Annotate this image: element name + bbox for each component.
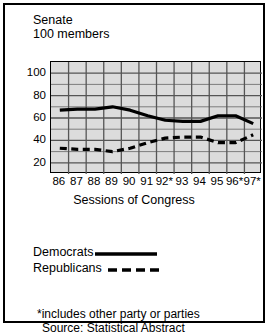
x-tick-label: 94	[193, 175, 206, 187]
x-tick-label: 95	[211, 175, 224, 187]
legend-item-republicans: Republicans	[33, 261, 166, 277]
x-tick-label: 89	[105, 175, 118, 187]
line-chart-svg	[51, 62, 262, 174]
y-tick-label: 20	[33, 156, 46, 168]
x-tick-label: 86	[52, 175, 65, 187]
x-tick-label: 90	[123, 175, 136, 187]
chart-notes: *includes other party or parties Source:…	[37, 293, 200, 336]
source-line: Source: Statistical Abstract	[42, 321, 200, 335]
x-axis-title: Sessions of Congress	[5, 193, 263, 207]
legend-swatch-republicans-dashed	[104, 264, 166, 274]
y-tick-label: 80	[33, 89, 46, 101]
y-tick-label: 100	[27, 66, 46, 78]
chart-card: Senate 100 members 20406080100 868788899…	[3, 3, 265, 323]
page-title: Senate 100 members	[33, 13, 109, 41]
x-tick-label: 91	[140, 175, 153, 187]
x-axis-labels: 86878889909192*93949596*97*	[50, 175, 261, 191]
legend-swatch-democrats-solid	[95, 248, 157, 258]
footnote-asterisk: *includes other party or parties	[37, 307, 200, 321]
x-tick-label: 97*	[244, 175, 261, 187]
y-axis-labels: 20406080100	[5, 61, 46, 173]
plot-area	[50, 61, 261, 173]
chart-legend: Democrats Republicans	[33, 245, 166, 277]
legend-label-democrats: Democrats	[33, 245, 93, 259]
y-tick-label: 40	[33, 133, 46, 145]
x-tick-label: 92*	[156, 175, 173, 187]
x-tick-label: 96*	[226, 175, 243, 187]
legend-item-democrats: Democrats	[33, 245, 166, 261]
legend-label-republicans: Republicans	[33, 261, 102, 275]
plot-canvas	[50, 61, 261, 173]
y-tick-label: 60	[33, 111, 46, 123]
x-tick-label: 93	[175, 175, 188, 187]
x-tick-label: 88	[88, 175, 101, 187]
x-tick-label: 87	[70, 175, 83, 187]
